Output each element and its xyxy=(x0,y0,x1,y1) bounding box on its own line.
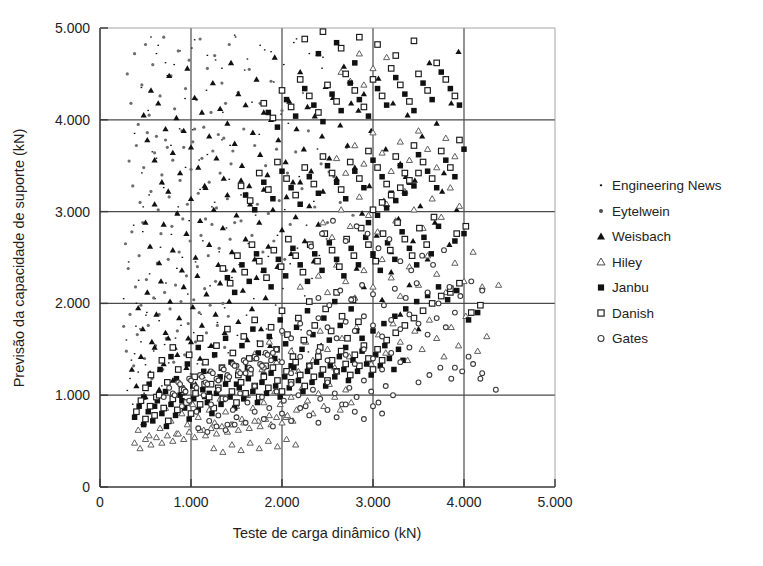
data-point xyxy=(217,322,219,323)
data-point xyxy=(186,203,189,206)
data-point xyxy=(431,214,437,220)
data-point xyxy=(193,332,195,333)
data-point xyxy=(137,123,140,126)
data-point xyxy=(273,81,275,82)
data-point xyxy=(128,261,130,262)
data-point xyxy=(299,347,305,353)
data-point xyxy=(398,259,403,264)
data-point xyxy=(370,77,376,83)
data-point xyxy=(174,283,177,286)
data-point xyxy=(438,365,443,370)
data-point xyxy=(223,336,229,342)
data-point xyxy=(424,242,430,248)
data-point xyxy=(173,64,175,65)
data-point xyxy=(252,317,258,323)
data-point xyxy=(436,284,442,290)
data-point xyxy=(228,43,231,46)
data-point xyxy=(338,288,343,293)
data-point xyxy=(307,174,313,180)
data-point xyxy=(321,68,323,69)
data-point xyxy=(229,238,232,241)
data-point xyxy=(343,196,349,202)
data-point xyxy=(140,341,142,342)
data-point xyxy=(254,356,259,361)
data-point xyxy=(307,129,310,132)
data-point xyxy=(226,197,229,200)
data-point xyxy=(223,381,229,387)
data-point xyxy=(302,165,308,171)
data-point xyxy=(334,179,340,185)
data-point xyxy=(209,402,214,407)
data-point xyxy=(347,385,352,390)
data-point xyxy=(253,298,255,299)
data-point xyxy=(366,242,372,248)
data-point xyxy=(298,176,300,177)
data-point xyxy=(149,190,152,193)
data-point xyxy=(195,261,197,262)
data-point xyxy=(364,361,370,367)
data-point xyxy=(327,240,333,246)
data-point xyxy=(200,387,206,393)
data-point xyxy=(447,284,452,289)
data-point xyxy=(337,264,343,270)
data-point xyxy=(234,415,239,420)
data-point xyxy=(227,280,233,286)
data-point xyxy=(239,262,245,268)
data-point xyxy=(449,376,454,381)
data-point xyxy=(270,196,276,202)
data-point xyxy=(197,363,199,364)
data-point xyxy=(279,88,285,94)
data-point xyxy=(393,75,399,81)
data-point xyxy=(214,202,216,203)
data-point xyxy=(366,113,372,119)
data-point xyxy=(351,214,354,217)
data-point xyxy=(267,406,272,411)
data-point xyxy=(198,159,200,160)
data-point xyxy=(289,263,291,264)
data-point xyxy=(188,220,190,221)
data-point xyxy=(411,315,417,321)
data-point xyxy=(280,109,283,112)
data-point xyxy=(379,93,385,99)
data-point xyxy=(346,378,352,384)
x-tick-label: 3.000 xyxy=(355,494,390,510)
data-point xyxy=(425,332,430,337)
data-point xyxy=(436,301,441,306)
data-point xyxy=(327,337,333,343)
data-point xyxy=(177,206,179,207)
data-point xyxy=(332,374,338,380)
data-point xyxy=(171,234,173,235)
data-point xyxy=(316,316,321,321)
data-point xyxy=(318,396,323,401)
data-point xyxy=(407,178,413,184)
data-point xyxy=(407,99,413,105)
data-point xyxy=(407,312,412,317)
data-point xyxy=(261,268,267,274)
data-point xyxy=(302,383,308,389)
data-point xyxy=(152,151,154,152)
data-point xyxy=(393,53,399,59)
data-point xyxy=(132,364,135,367)
data-point xyxy=(312,323,318,329)
data-point xyxy=(152,413,158,419)
data-point xyxy=(196,265,199,268)
data-point xyxy=(176,268,178,269)
data-point xyxy=(155,135,158,138)
data-point xyxy=(207,154,209,155)
legend-marker-janbu xyxy=(598,284,604,290)
data-point xyxy=(365,231,370,236)
data-point xyxy=(298,406,303,411)
data-point xyxy=(160,247,162,248)
data-point xyxy=(185,361,191,367)
data-point xyxy=(168,195,171,198)
data-point xyxy=(316,354,322,360)
data-point xyxy=(480,371,485,376)
data-point xyxy=(218,251,220,252)
data-point xyxy=(229,145,231,146)
data-point xyxy=(227,374,232,379)
data-point xyxy=(409,253,415,259)
data-point xyxy=(135,144,138,147)
data-point xyxy=(170,145,172,146)
data-point xyxy=(280,113,282,114)
data-point xyxy=(238,371,243,376)
